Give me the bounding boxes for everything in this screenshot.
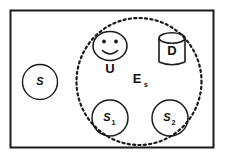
- environment-label: E: [133, 71, 142, 86]
- node-s1-label: S: [103, 111, 111, 123]
- environment-label-subscript: s: [144, 81, 148, 88]
- smiley-face-icon: [93, 32, 127, 61]
- node-s2-label: S: [163, 111, 171, 123]
- smiley-eye-right: [114, 40, 118, 44]
- user-label: U: [105, 61, 114, 76]
- set-diagram-svg: S U D E s S 1 S 2: [0, 0, 229, 158]
- smiley-eye-left: [102, 40, 106, 44]
- smiley-mouth: [103, 51, 118, 55]
- node-s-outside-label: S: [36, 75, 44, 87]
- database-label: D: [167, 43, 176, 58]
- node-s1-subscript: 1: [112, 119, 116, 126]
- diagram-canvas: S U D E s S 1 S 2: [0, 0, 229, 158]
- node-s2-subscript: 2: [172, 119, 176, 126]
